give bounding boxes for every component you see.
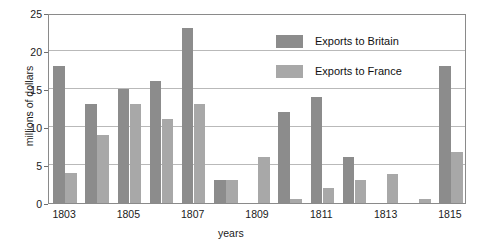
- bar: [311, 97, 323, 203]
- bar: [419, 199, 431, 203]
- bar: [258, 157, 270, 203]
- bar-series-layer: [49, 15, 465, 203]
- x-tick-label: 1815: [438, 208, 461, 220]
- legend-label: Exports to Britain: [315, 35, 399, 47]
- bar: [387, 174, 399, 203]
- bar: [130, 104, 142, 203]
- bar: [162, 119, 174, 203]
- bar-group: [53, 15, 77, 203]
- bar: [214, 180, 226, 203]
- x-axis-title: years: [218, 227, 244, 239]
- bar: [355, 180, 367, 203]
- bar-group: [407, 15, 431, 203]
- y-tick-label: 10: [12, 122, 42, 134]
- y-tick-label: 0: [12, 198, 42, 210]
- x-tick-label: 1813: [374, 208, 397, 220]
- legend-swatch: [276, 35, 303, 48]
- legend-item: Exports to France: [276, 61, 402, 81]
- bar: [118, 89, 130, 203]
- y-tick-mark: [44, 204, 48, 205]
- x-tick-label: 1809: [245, 208, 268, 220]
- plot-area: [48, 14, 466, 204]
- bar: [85, 104, 97, 203]
- x-tick-label: 1803: [52, 208, 75, 220]
- bar-group: [439, 15, 463, 203]
- bar: [323, 188, 335, 203]
- y-tick-mark: [44, 90, 48, 91]
- bar: [65, 173, 77, 203]
- y-tick-label: 25: [12, 8, 42, 20]
- legend-item: Exports to Britain: [276, 31, 402, 51]
- chart-legend: Exports to BritainExports to France: [276, 31, 402, 91]
- bar-group: [118, 15, 142, 203]
- bar: [150, 81, 162, 203]
- bar-group: [150, 15, 174, 203]
- bar: [343, 157, 355, 203]
- y-tick-mark: [44, 52, 48, 53]
- bar-group: [85, 15, 109, 203]
- bar: [451, 152, 463, 203]
- bar: [439, 66, 451, 203]
- bar: [97, 135, 109, 203]
- bar: [182, 28, 194, 203]
- legend-label: Exports to France: [315, 65, 402, 77]
- y-tick-mark: [44, 166, 48, 167]
- bar-group: [214, 15, 238, 203]
- y-tick-label: 5: [12, 160, 42, 172]
- bar: [278, 112, 290, 203]
- legend-swatch: [276, 65, 303, 78]
- bar-group: [182, 15, 206, 203]
- chart-container: millions of dollars 0510152025 180318051…: [0, 0, 482, 249]
- x-tick-label: 1807: [181, 208, 204, 220]
- y-tick-label: 15: [12, 84, 42, 96]
- y-tick-mark: [44, 128, 48, 129]
- y-tick-mark: [44, 14, 48, 15]
- bar-group: [246, 15, 270, 203]
- x-tick-label: 1811: [310, 208, 333, 220]
- y-tick-label: 20: [12, 46, 42, 58]
- bar: [194, 104, 206, 203]
- bar: [53, 66, 65, 203]
- x-tick-label: 1805: [117, 208, 140, 220]
- bar: [290, 199, 302, 203]
- bar: [226, 180, 238, 203]
